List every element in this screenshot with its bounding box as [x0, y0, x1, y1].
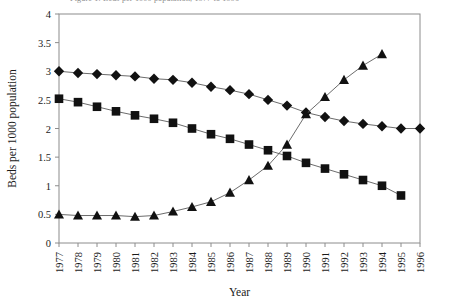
data-point-square [264, 146, 273, 155]
axis-layer [55, 14, 420, 247]
x-tick-label: 1982 [149, 252, 160, 273]
x-tick-label: 1983 [168, 252, 179, 273]
truncated-figure-caption: Figure 1. Beds per 1000 population, 1977… [70, 0, 400, 4]
data-point-square [74, 98, 83, 107]
data-point-triangle [339, 75, 349, 84]
x-tick-label: 1980 [111, 252, 122, 273]
y-tick-label: 3.5 [38, 38, 51, 49]
x-tick-label: 1995 [396, 252, 407, 273]
data-point-diamond [377, 121, 387, 131]
y-tick-label: 2.5 [38, 95, 51, 106]
data-point-triangle [377, 49, 387, 58]
series-line-triangle [59, 54, 382, 217]
x-axis-title: Year [229, 286, 250, 298]
y-tick-label: 4 [46, 9, 52, 20]
x-tick-label: 1993 [358, 252, 369, 273]
data-point-square [283, 152, 292, 161]
data-point-diamond [92, 69, 102, 79]
series-line-square [59, 99, 401, 196]
series-diamond [54, 66, 425, 134]
data-point-diamond [149, 73, 159, 83]
data-point-triangle [244, 175, 254, 184]
y-tick-label: 2 [46, 124, 51, 135]
data-point-square [93, 102, 102, 111]
x-tick-label: 1994 [377, 251, 388, 273]
data-point-diamond [320, 112, 330, 122]
series-line-diamond [59, 71, 420, 128]
y-axis-title: Beds per 1000 population [6, 69, 19, 188]
data-point-diamond [187, 78, 197, 88]
data-point-diamond [263, 95, 273, 105]
data-point-diamond [54, 66, 64, 76]
data-point-diamond [282, 100, 292, 110]
data-point-diamond [168, 75, 178, 85]
data-point-diamond [396, 123, 406, 133]
x-tick-label: 1988 [263, 252, 274, 273]
data-point-triangle [225, 188, 235, 197]
data-point-square [131, 111, 140, 120]
data-point-square [226, 135, 235, 144]
figure-container: Figure 1. Beds per 1000 population, 1977… [0, 0, 472, 305]
data-point-square [207, 130, 216, 139]
data-point-square [188, 124, 197, 133]
data-point-diamond [206, 82, 216, 92]
data-point-square [169, 118, 178, 127]
series-square [55, 94, 406, 199]
y-tick-label: 1 [46, 181, 51, 192]
x-tick-label: 1989 [282, 252, 293, 273]
data-point-diamond [225, 85, 235, 95]
data-point-square [359, 176, 368, 185]
y-tick-label: 0.5 [38, 209, 51, 220]
line-chart: 00.511.522.533.5419771978197919801981198… [0, 0, 472, 305]
x-tick-label: 1987 [244, 252, 255, 273]
data-point-square [245, 140, 254, 149]
data-point-square [302, 159, 311, 168]
data-point-diamond [358, 119, 368, 129]
data-point-diamond [244, 89, 254, 99]
x-tick-label: 1996 [415, 252, 426, 273]
x-tick-label: 1985 [206, 252, 217, 273]
plot-frame [59, 14, 420, 243]
data-point-square [150, 114, 159, 123]
x-tick-label: 1977 [54, 252, 65, 273]
x-tick-label: 1981 [130, 252, 141, 273]
data-point-diamond [111, 70, 121, 80]
x-tick-label: 1992 [339, 252, 350, 273]
series-layer [54, 49, 425, 221]
y-tick-label: 1.5 [38, 152, 51, 163]
data-point-triangle [282, 140, 292, 149]
data-point-diamond [73, 68, 83, 78]
x-tick-label: 1979 [92, 252, 103, 273]
x-tick-label: 1984 [187, 251, 198, 273]
data-point-diamond [339, 116, 349, 126]
x-tick-label: 1991 [320, 252, 331, 273]
x-tick-label: 1978 [73, 252, 84, 273]
data-point-triangle [358, 61, 368, 70]
x-tick-label: 1990 [301, 252, 312, 273]
label-layer: 00.511.522.533.5419771978197919801981198… [6, 9, 426, 298]
data-point-square [340, 170, 349, 179]
data-point-square [378, 181, 387, 190]
data-point-square [397, 191, 406, 200]
y-tick-label: 3 [46, 66, 51, 77]
data-point-triangle [187, 202, 197, 211]
data-point-triangle [206, 197, 216, 206]
data-point-diamond [130, 71, 140, 81]
data-point-square [55, 94, 64, 103]
data-point-diamond [415, 123, 425, 133]
data-point-square [112, 107, 121, 116]
y-tick-label: 0 [46, 238, 51, 249]
data-point-square [321, 164, 330, 173]
x-tick-label: 1986 [225, 252, 236, 273]
